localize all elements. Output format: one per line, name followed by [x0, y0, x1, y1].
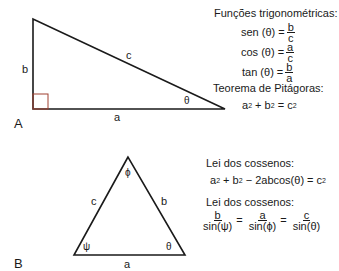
cos-law-b: b [233, 175, 239, 186]
sin-law-title: Lei dos cossenos: [206, 197, 294, 208]
sin-equation: sen (θ) = b c [241, 22, 295, 43]
pyth-b: b [265, 100, 271, 111]
angle-phi-label: ϕ [125, 168, 131, 178]
sin-law-a-den: sin(ϕ) [249, 221, 277, 231]
sin-law-equation: b sin(ψ) = a sin(ϕ) = c sin(θ) [201, 210, 320, 231]
pyth-plus: + [252, 100, 265, 111]
sin-law-frac-b: b sin(ψ) [203, 210, 232, 231]
panel-a-label: A [14, 117, 23, 130]
right-triangle [33, 19, 225, 109]
side-a-label: a [114, 112, 120, 123]
sin-law-frac-c: c sin(θ) [293, 210, 321, 231]
cos-equation: cos (θ) = a c [241, 42, 294, 63]
sin-law-eq-2: = [280, 215, 286, 226]
sin-lhs: sen (θ) = [241, 27, 285, 38]
tan-lhs: tan (θ) = [242, 67, 283, 78]
side-b-label: b [22, 64, 28, 75]
tan-equation: tan (θ) = b a [242, 62, 293, 83]
right-angle-marker [33, 94, 48, 109]
cos-fraction: a c [286, 42, 294, 63]
sin-law-eq-1: = [236, 215, 242, 226]
angle-theta-label: θ [184, 96, 190, 106]
tan-fraction: b a [285, 62, 293, 83]
cos-law-plus: + [220, 175, 233, 186]
sin-law-frac-a: a sin(ϕ) [249, 210, 277, 231]
sin-law-c-den: sin(θ) [293, 221, 321, 231]
pyth-c: c [287, 100, 293, 111]
cos-law-equation: a2 + b2 − 2abcos(θ) = c2 [210, 175, 326, 186]
side-c-label: c [126, 50, 132, 61]
sin-fraction: b c [287, 22, 295, 43]
angle-psi-label: ψ [83, 242, 90, 252]
side-b-label-b: b [161, 196, 167, 207]
side-c-label-b: c [91, 196, 97, 207]
cos-law-rest: − 2abcos(θ) = [243, 175, 317, 186]
cos-lhs: cos (θ) = [241, 47, 284, 58]
panel-b-label: B [14, 257, 23, 270]
trig-title: Funções trigonométricas: [214, 8, 338, 19]
sin-law-b-den: sin(ψ) [203, 221, 232, 231]
cos-law-title: Lei dos cossenos: [206, 158, 294, 169]
pythagoras-title: Teorema de Pitágoras: [213, 83, 324, 94]
pythagoras-equation: a2 + b2 = c2 [242, 100, 297, 111]
side-a-label-b: a [124, 259, 130, 270]
pyth-eq: = [275, 100, 288, 111]
angle-theta-label-b: θ [166, 242, 172, 252]
